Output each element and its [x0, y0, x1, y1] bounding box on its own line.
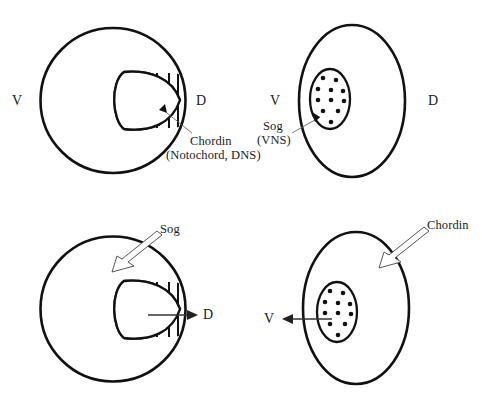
label-ventral-bottom-right: V [264, 311, 274, 327]
callout-chordin-top-left: Chordin (Notochord, DNS) [190, 134, 261, 162]
callout-chordin-line2: (Notochord, DNS) [166, 148, 261, 162]
vns-region-bottom-right [317, 282, 357, 342]
panel-bottom-right [282, 227, 429, 384]
label-dorsal-top-right: D [428, 93, 438, 109]
callout-chordin-bottom-right: Chordin [427, 218, 469, 232]
label-dorsal-bottom-left: D [203, 307, 213, 323]
callout-sog-line2: (VNS) [257, 133, 291, 147]
label-dorsal-top-left: D [196, 93, 206, 109]
panel-bottom-left [41, 231, 199, 382]
callout-sog-top-right: Sog (VNS) [263, 119, 291, 147]
panel-top-right [292, 25, 405, 177]
label-ventral-top-right: V [270, 93, 280, 109]
callout-sog-line1: Sog [263, 119, 283, 133]
callout-chordin-line1: Chordin [190, 134, 232, 148]
figure-drawing [0, 0, 482, 414]
callout-sog-bottom-left: Sog [160, 222, 180, 236]
label-ventral-top-left: V [12, 93, 22, 109]
figure-container: V D Chordin (Notochord, DNS) V D Sog (VN… [0, 0, 482, 414]
